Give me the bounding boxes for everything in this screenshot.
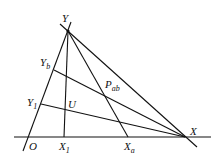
point-Y (66, 29, 69, 32)
label-Pab: Pab (104, 78, 120, 93)
label-X: X (189, 125, 198, 137)
label-Yb: Yb (40, 56, 50, 71)
label-X1: X1 (58, 140, 70, 155)
geometry-diagram: Y Yb Pab Y1 U O X1 Xa X (0, 0, 223, 163)
line-YX (60, 24, 197, 147)
label-Y: Y (62, 12, 70, 24)
label-Y1: Y1 (27, 96, 37, 111)
line-YX1 (64, 31, 68, 137)
line-Y1X (41, 104, 185, 137)
label-U: U (68, 98, 77, 110)
label-O: O (29, 140, 37, 152)
label-Xa: Xa (123, 140, 135, 155)
